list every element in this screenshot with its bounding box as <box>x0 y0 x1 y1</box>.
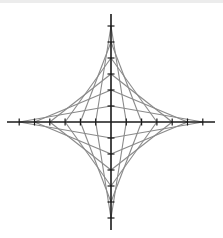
astroid-string-art <box>0 0 223 238</box>
axes <box>7 14 215 230</box>
